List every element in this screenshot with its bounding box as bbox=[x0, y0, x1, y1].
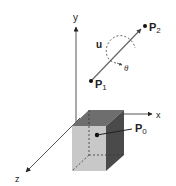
p2-point bbox=[143, 24, 147, 28]
rotation-arrow bbox=[117, 63, 122, 65]
p2-label: P2 bbox=[149, 21, 161, 35]
z-axis bbox=[26, 122, 76, 172]
vector-u bbox=[91, 29, 141, 81]
diagram-canvas: y x z u θ P1 P2 P0 bbox=[0, 0, 176, 186]
vector-u-label: u bbox=[96, 39, 102, 50]
p1-label: P1 bbox=[95, 78, 107, 92]
cube-front-face bbox=[72, 126, 106, 171]
y-axis-label: y bbox=[73, 12, 78, 23]
p1-point bbox=[89, 79, 93, 83]
x-axis-label: x bbox=[156, 110, 161, 120]
theta-label: θ bbox=[124, 63, 129, 73]
cube-object bbox=[72, 110, 124, 171]
z-axis-label: z bbox=[15, 174, 20, 184]
p0-label: P0 bbox=[135, 122, 147, 136]
